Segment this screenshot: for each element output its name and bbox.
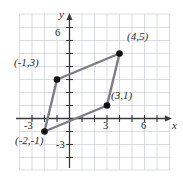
- y-axis-label: y: [59, 8, 64, 20]
- vertex-point-4-5: [116, 50, 123, 57]
- point-label-neg1-3: (-1,3): [14, 56, 39, 68]
- x-tick-label-6: 6: [141, 120, 146, 131]
- y-tick-label-6: 6: [55, 27, 60, 38]
- plot-canvas: [0, 0, 183, 180]
- point-label-4-5: (4,5): [127, 30, 148, 42]
- y-tick-label-neg3: -3: [56, 139, 65, 150]
- point-label-3-1: (3,1): [111, 89, 132, 101]
- vertex-point-neg1-3: [54, 76, 61, 83]
- x-tick-label-neg3: -3: [24, 120, 33, 131]
- x-tick-label-3: 3: [103, 120, 108, 131]
- coordinate-plane-figure: (-1,3) (4,5) (3,1) (-2,-1) -3 3 6 6 -3 x…: [0, 0, 183, 180]
- x-axis-label: x: [172, 119, 177, 131]
- vertex-point-3-1: [104, 102, 111, 109]
- point-label-neg2-neg1: (-2,-1): [15, 134, 43, 146]
- x-axis-arrow: [165, 116, 172, 122]
